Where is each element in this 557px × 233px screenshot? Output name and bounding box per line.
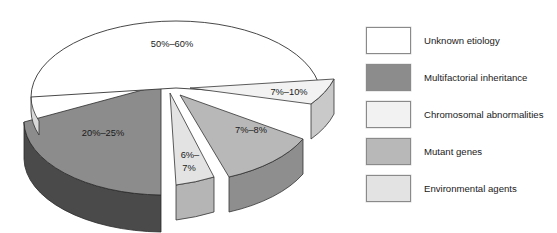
legend-label-multifactorial-inheritance: Multifactorial inheritance — [424, 73, 527, 83]
legend-item-mutant-genes[interactable]: Mutant genes — [366, 133, 556, 170]
legend-label-environmental-agents: Environmental agents — [424, 184, 517, 194]
legend-item-chromosomal-abnormalities[interactable]: Chromosomal abnormalities — [366, 96, 556, 133]
legend-swatch-chromosomal-abnormalities — [366, 101, 411, 128]
legend-label-chromosomal-abnormalities: Chromosomal abnormalities — [424, 110, 543, 120]
legend-swatch-multifactorial-inheritance — [366, 64, 411, 91]
legend-swatch-mutant-genes — [366, 138, 411, 165]
pie-chart-figure: 20%–25% 50%–60% 7%–10% 7%–8% — [0, 0, 557, 233]
slice-label-mutant-genes: 7%–8% — [235, 125, 267, 135]
legend-swatch-environmental-agents — [366, 175, 411, 202]
slice-label-environmental-agents-line1: 6%– — [181, 150, 200, 160]
legend-item-multifactorial-inheritance[interactable]: Multifactorial inheritance — [366, 59, 556, 96]
slice-label-chromosomal-abnormalities: 7%–10% — [270, 87, 307, 97]
legend-swatch-unknown-etiology — [366, 27, 411, 54]
legend-item-environmental-agents[interactable]: Environmental agents — [366, 170, 556, 207]
slice-label-unknown-etiology: 50%–60% — [151, 39, 193, 49]
legend-label-mutant-genes: Mutant genes — [424, 147, 482, 157]
slice-multifactorial-inheritance[interactable]: 20%–25% — [24, 85, 161, 232]
legend-label-unknown-etiology: Unknown etiology — [424, 36, 500, 46]
legend: Unknown etiology Multifactorial inherita… — [366, 22, 556, 207]
legend-item-unknown-etiology[interactable]: Unknown etiology — [366, 22, 556, 59]
pie-chart-graphic: 20%–25% 50%–60% 7%–10% 7%–8% — [0, 0, 360, 233]
pie-svg: 20%–25% 50%–60% 7%–10% 7%–8% — [0, 0, 360, 233]
slice-label-environmental-agents-line2: 7% — [182, 163, 195, 173]
slice-label-multifactorial-inheritance: 20%–25% — [82, 128, 124, 138]
